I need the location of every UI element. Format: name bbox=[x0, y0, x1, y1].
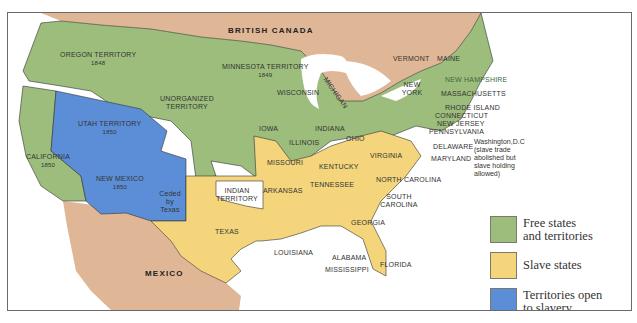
legend-item-free: Free states and territories bbox=[490, 216, 630, 243]
label-north-carolina: NORTH CAROLINA bbox=[376, 176, 441, 184]
label-wisconsin: WISCONSIN bbox=[277, 89, 319, 97]
label-ceded-by-texas: Ceded by Texas bbox=[157, 190, 183, 214]
label-mississippi: MISSISSIPPI bbox=[325, 266, 369, 274]
label-minnesota: MINNESOTA TERRITORY1849 bbox=[222, 63, 309, 79]
label-new-mexico: NEW MEXICO1850 bbox=[96, 175, 144, 191]
legend-label-free: Free states and territories bbox=[523, 217, 593, 243]
label-california: CALIFORNIA1850 bbox=[26, 153, 70, 169]
label-new-hampshire: NEW HAMPSHIRE bbox=[445, 76, 508, 84]
label-delaware: DELAWARE bbox=[433, 143, 473, 151]
label-rhode-island: RHODE ISLAND bbox=[445, 104, 500, 112]
label-georgia: GEORGIA bbox=[351, 219, 385, 227]
legend-item-open: Territories open to slavery bbox=[490, 288, 630, 311]
label-british-canada: BRITISH CANADA bbox=[228, 27, 314, 35]
legend-swatch-free bbox=[490, 216, 517, 243]
label-new-jersey: NEW JERSEY bbox=[437, 120, 485, 128]
label-ohio: OHIO bbox=[346, 135, 365, 143]
legend-swatch-open bbox=[490, 288, 517, 311]
label-tennessee: TENNESSEE bbox=[310, 181, 354, 189]
label-connecticut: CONNECTICUT bbox=[435, 112, 488, 120]
label-pennsylvania: PENNSYLVANIA bbox=[429, 128, 484, 136]
label-kentucky: KENTUCKY bbox=[319, 163, 359, 171]
label-maryland: MARYLAND bbox=[431, 155, 471, 163]
legend-item-slave: Slave states bbox=[490, 252, 630, 279]
map-frame: BRITISH CANADA MEXICO OREGON TERRITORY18… bbox=[7, 12, 632, 311]
label-arkansas: ARKANSAS bbox=[263, 187, 303, 195]
label-alabama: ALABAMA bbox=[332, 254, 366, 262]
label-florida: FLORIDA bbox=[380, 261, 412, 269]
label-new-york: NEW YORK bbox=[401, 81, 423, 97]
label-indian-territory: INDIAN TERRITORY bbox=[214, 187, 260, 203]
label-massachusetts: MASSACHUSETTS bbox=[441, 90, 506, 98]
map-legend: Free states and territories Slave states… bbox=[490, 216, 630, 311]
legend-label-open: Territories open to slavery bbox=[523, 289, 602, 312]
label-maine: MAINE bbox=[437, 55, 460, 63]
label-iowa: IOWA bbox=[259, 125, 278, 133]
label-vermont: VERMONT bbox=[393, 55, 429, 63]
label-utah: UTAH TERRITORY1850 bbox=[78, 120, 141, 136]
label-south-carolina: SOUTH CAROLINA bbox=[380, 193, 418, 209]
label-virginia: VIRGINIA bbox=[370, 152, 402, 160]
label-texas: TEXAS bbox=[215, 228, 239, 236]
note-washington-dc: Washington,D.C (slave trade abolished bu… bbox=[474, 138, 525, 178]
label-mexico: MEXICO bbox=[145, 270, 184, 278]
label-illinois: ILLINOIS bbox=[289, 139, 319, 147]
legend-label-slave: Slave states bbox=[523, 259, 582, 272]
label-oregon: OREGON TERRITORY1848 bbox=[60, 51, 136, 67]
label-louisiana: LOUISIANA bbox=[274, 249, 313, 257]
label-unorganized: UNORGANIZED TERRITORY bbox=[155, 95, 219, 111]
label-missouri: MISSOURI bbox=[267, 159, 303, 167]
label-indiana: INDIANA bbox=[315, 125, 345, 133]
legend-swatch-slave bbox=[490, 252, 517, 279]
